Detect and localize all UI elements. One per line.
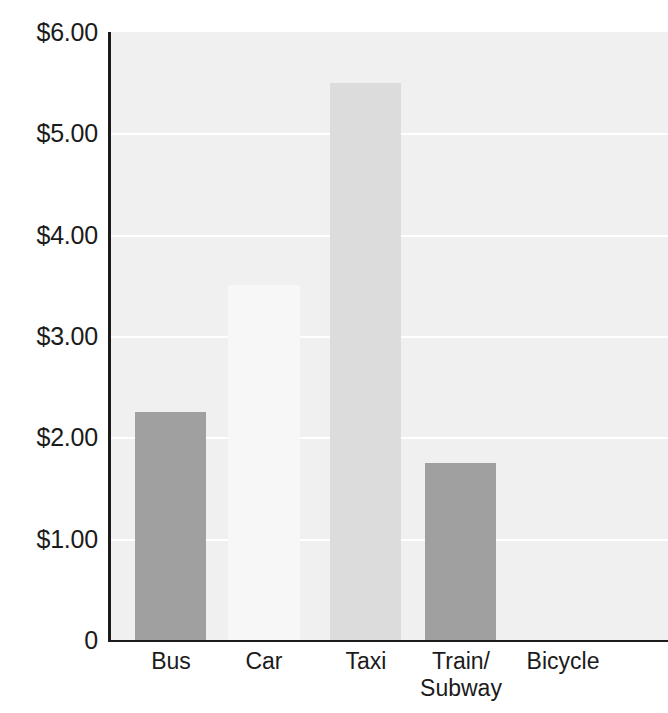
bar-train-subway[interactable] xyxy=(425,463,496,640)
y-axis-labels: $6.00 $5.00 $4.00 $3.00 $2.00 $1.00 0 xyxy=(0,0,98,713)
bar-taxi[interactable] xyxy=(330,83,401,640)
y-tick-label-4: $4.00 xyxy=(0,222,98,247)
plot-area xyxy=(111,32,668,640)
x-tick-label-bus: Bus xyxy=(151,648,191,675)
y-tick-label-5: $5.00 xyxy=(0,121,98,146)
y-tick-label-2: $2.00 xyxy=(0,425,98,450)
x-tick-label-bicycle: Bicycle xyxy=(527,648,600,675)
bar-car[interactable] xyxy=(228,285,300,640)
x-tick-label-train-subway: Train/ Subway xyxy=(420,648,502,702)
x-tick-label-car: Car xyxy=(245,648,282,675)
y-tick-label-0: 0 xyxy=(0,628,98,653)
y-tick-label-3: $3.00 xyxy=(0,324,98,349)
bar-chart: $6.00 $5.00 $4.00 $3.00 $2.00 $1.00 0 xyxy=(0,0,668,713)
y-tick-label-6: $6.00 xyxy=(0,20,98,45)
bar-bus[interactable] xyxy=(135,412,206,640)
x-axis-labels: Bus Car Taxi Train/ Subway Bicycle xyxy=(111,648,668,713)
x-tick-label-taxi: Taxi xyxy=(346,648,387,675)
y-tick-label-1: $1.00 xyxy=(0,526,98,551)
